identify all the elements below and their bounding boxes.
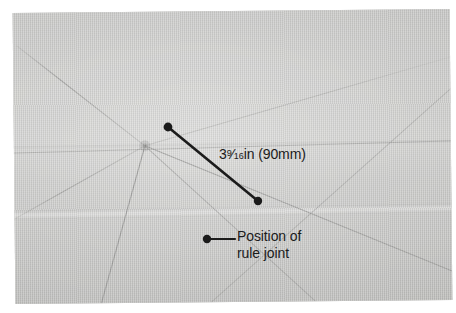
figure-container: 39⁄16in (90mm) Position ofrule joint (0, 0, 456, 313)
dimension-metric: (90mm) (258, 146, 306, 162)
joint-label-line-2: rule joint (237, 245, 301, 262)
dimension-fraction: 9⁄16 (227, 146, 244, 163)
joint-label-line-1: Position of (237, 228, 301, 245)
dimension-denominator: 16 (234, 151, 244, 161)
dimension-unit: in (244, 146, 255, 162)
dimension-label: 39⁄16in (90mm) (219, 146, 306, 163)
dimension-whole: 3 (219, 146, 227, 162)
joint-label: Position ofrule joint (237, 228, 301, 262)
